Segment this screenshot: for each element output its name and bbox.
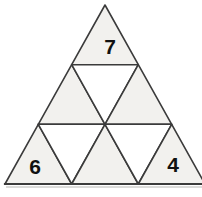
triangle-figure-canvas: 7 6 4 <box>0 0 202 197</box>
label-bottom-left-triangle: 6 <box>29 155 41 178</box>
label-bottom-right-triangle: 4 <box>167 153 179 176</box>
triangle-puzzle-figure: 7 6 4 <box>0 0 202 197</box>
label-top-triangle: 7 <box>104 35 116 58</box>
